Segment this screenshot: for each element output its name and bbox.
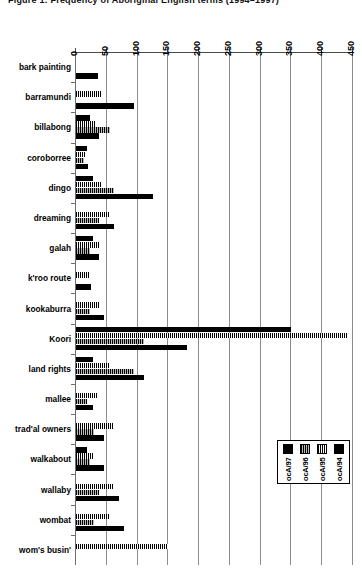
category-label: bark painting [19, 62, 71, 72]
x-axis-tick-label: 400 [315, 41, 325, 56]
legend-swatch [300, 444, 310, 454]
bar [76, 152, 85, 157]
bar [76, 526, 124, 531]
legend-item: ocA/96 [298, 444, 312, 481]
x-axis-tick-label: 150 [161, 41, 171, 56]
category-label: galah [49, 243, 71, 253]
category-axis-labels: bark paintingbarramundibillabongcoroborr… [0, 52, 71, 565]
bar-chart: Figure 1: Frequency of Aboriginal Englis… [0, 0, 362, 583]
bar [76, 115, 90, 120]
category-label: dingo [48, 183, 71, 193]
bar [76, 176, 93, 181]
bar [76, 121, 96, 126]
y-axis-tick [71, 263, 76, 264]
bar [76, 254, 99, 259]
bar [76, 103, 134, 108]
bar [76, 423, 113, 428]
gridline [321, 52, 322, 565]
bar [76, 333, 347, 338]
bar [76, 133, 99, 138]
legend-label: ocA/96 [301, 455, 310, 481]
category-label: wom's busin' [19, 545, 71, 555]
category-label: Koori [49, 334, 71, 344]
y-axis-tick [71, 384, 76, 385]
legend-label: ocA/97 [284, 455, 293, 481]
x-axis-line [75, 52, 352, 53]
gridline [229, 52, 230, 565]
y-axis-tick [71, 143, 76, 144]
legend-swatch [317, 444, 327, 454]
bar [76, 447, 87, 452]
bar [76, 164, 88, 169]
category-label: kookaburra [26, 304, 71, 314]
bar [76, 393, 98, 398]
plot-area [75, 52, 352, 565]
bar [76, 375, 144, 380]
bar [76, 484, 114, 489]
bar [76, 514, 110, 519]
y-axis-tick [71, 505, 76, 506]
bar [76, 490, 99, 495]
chart-title: Figure 1: Frequency of Aboriginal Englis… [8, 0, 279, 5]
category-label: trad'al owners [15, 424, 71, 434]
y-axis-tick [71, 444, 76, 445]
bar [76, 520, 94, 525]
bar [76, 459, 90, 464]
y-axis-tick [71, 82, 76, 83]
bar [76, 188, 114, 193]
category-label: wallaby [41, 485, 71, 495]
legend-item: ocA/97 [281, 444, 295, 481]
category-label: land rights [29, 364, 71, 374]
bar [76, 272, 90, 277]
bar [76, 399, 87, 404]
category-label: wombat [40, 515, 71, 525]
bar [76, 363, 110, 368]
bar [76, 302, 99, 307]
bar [76, 224, 114, 229]
legend-swatch [334, 444, 344, 454]
bar [76, 73, 98, 78]
legend-label: ocA/94 [335, 455, 344, 481]
y-axis-tick [71, 233, 76, 234]
y-axis-tick [71, 324, 76, 325]
y-axis-tick [71, 293, 76, 294]
bar [76, 345, 187, 350]
bar [76, 91, 101, 96]
chart-legend: ocA/97ocA/96ocA/95ocA/94 [277, 440, 350, 484]
bar [76, 435, 104, 440]
bar [76, 212, 110, 217]
x-axis-tick-label: 100 [131, 41, 141, 56]
category-label: mallee [45, 394, 71, 404]
legend-label: ocA/95 [318, 455, 327, 481]
legend-item: ocA/95 [315, 444, 329, 481]
y-axis-tick [71, 203, 76, 204]
bar [76, 194, 153, 199]
bar [76, 357, 93, 362]
bar [76, 327, 291, 332]
y-axis-tick [71, 474, 76, 475]
bar [76, 182, 101, 187]
legend-swatch [283, 444, 293, 454]
bar [76, 339, 144, 344]
bar [76, 158, 84, 163]
gridline [290, 52, 291, 565]
bar [76, 429, 94, 434]
x-axis-tick-label: 450 [346, 41, 356, 56]
y-axis-tick [71, 354, 76, 355]
bar [76, 405, 93, 410]
bar [76, 146, 87, 151]
y-axis-tick [71, 173, 76, 174]
gridline [167, 52, 168, 565]
bar [76, 242, 99, 247]
x-axis-tick-label: 350 [284, 41, 294, 56]
x-axis-tick-label: 250 [223, 41, 233, 56]
category-label: barramundi [25, 92, 71, 102]
category-label: walkabout [30, 454, 71, 464]
bar [76, 236, 93, 241]
gridline [198, 52, 199, 565]
x-axis-tick-label: 300 [254, 41, 264, 56]
x-axis-tick-label: 50 [100, 46, 110, 56]
bar [76, 496, 119, 501]
bar [76, 544, 168, 549]
bar [76, 465, 104, 470]
